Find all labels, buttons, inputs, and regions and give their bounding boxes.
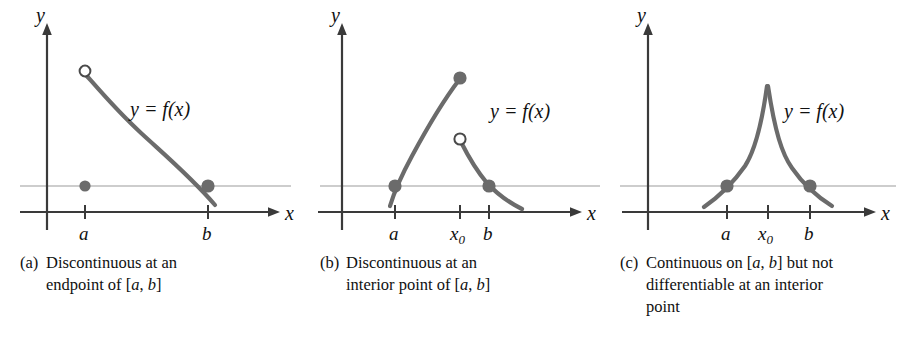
panel-c-caption-line-2: differentiable at an interior (646, 274, 902, 296)
panel-b-caption: (b)Discontinuous at aninterior point of … (320, 252, 590, 296)
panel-a-plot: y x a b y = f(x) (0, 0, 302, 246)
curve-equation-label: y = f(x) (782, 100, 844, 123)
panel-c-plot: y x a x0 b y = f(x) (600, 0, 906, 246)
panel-c: y x a x0 b y = f(x) (c)Continuous on [a,… (600, 0, 906, 346)
panel-c-caption: (c)Continuous on [a, b] but notdifferent… (620, 252, 906, 318)
axes-group (318, 23, 582, 230)
panel-c-caption-line-3: point (646, 296, 902, 318)
filled-dot-at-b (482, 179, 495, 192)
tick-label-b: b (483, 223, 493, 244)
panel-a-caption-line-2: endpoint of [a, b] (46, 274, 286, 296)
panel-b-marker: (b) (320, 252, 346, 274)
panel-c-caption-line-1: Continuous on [a, b] but not (646, 253, 833, 272)
tick-label-a: a (79, 223, 89, 244)
panel-a-caption: (a)Discontinuous at anendpoint of [a, b] (20, 252, 290, 296)
filled-dot-at-a (79, 180, 90, 191)
panel-b-caption-line-2: interior point of [a, b] (346, 274, 586, 296)
y-axis-label: y (635, 4, 646, 27)
curve-equation-label: y = f(x) (128, 98, 190, 121)
filled-dot-at-a (720, 179, 733, 192)
filled-dot-at-b (201, 179, 214, 192)
filled-dot-at-b (803, 179, 816, 192)
filled-dot-at-a (388, 179, 401, 192)
tick-label-x0: x0 (757, 223, 773, 246)
x-axis-label: x (586, 202, 596, 224)
panel-a: y x a b y = f(x) (a)Discontinuous at ane… (0, 0, 302, 346)
filled-dot-left-limit (453, 71, 466, 84)
y-axis-label: y (329, 4, 340, 27)
panel-a-caption-line-1: Discontinuous at an (46, 253, 177, 272)
figure-container: y x a b y = f(x) (a)Discontinuous at ane… (0, 0, 906, 346)
tick-label-a: a (721, 223, 731, 244)
x-axis-arrowhead (268, 207, 280, 217)
point-group (79, 66, 214, 193)
label-group: y x a x0 b y = f(x) (329, 4, 596, 246)
x-axis-arrowhead (864, 207, 876, 217)
open-circle-at-x0 (454, 133, 465, 144)
tick-label-a: a (389, 223, 399, 244)
tick-label-b: b (804, 223, 814, 244)
tick-label-x0: x0 (449, 223, 465, 246)
x-axis-label: x (880, 202, 890, 224)
axes-group (20, 23, 280, 230)
function-curve-left-branch (704, 86, 767, 207)
panel-b-caption-line-1: Discontinuous at an (346, 253, 477, 272)
x-axis-arrowhead (570, 207, 582, 217)
panel-b-plot: y x a x0 b y = f(x) (300, 0, 610, 246)
function-curve-right-branch (461, 142, 522, 209)
label-group: y x a b y = f(x) (34, 4, 294, 244)
open-circle-endpoint (80, 66, 91, 77)
curve-equation-label: y = f(x) (488, 100, 550, 123)
panel-a-marker: (a) (20, 252, 46, 274)
y-axis-label: y (34, 4, 45, 27)
x-axis-label: x (284, 202, 294, 224)
tick-label-b: b (202, 223, 212, 244)
panel-b: y x a x0 b y = f(x) (b)Discontinuous at … (300, 0, 610, 346)
panel-c-marker: (c) (620, 252, 646, 274)
axes-group (622, 23, 876, 230)
label-group: y x a x0 b y = f(x) (635, 4, 890, 246)
